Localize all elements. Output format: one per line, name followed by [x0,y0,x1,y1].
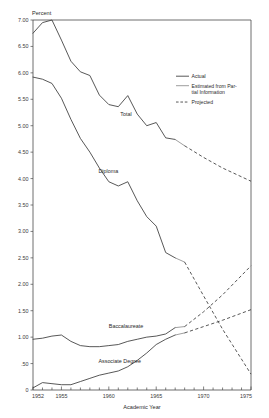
series-baccalaureate-actual [33,328,175,347]
x-tick-label: 1970 [198,393,210,399]
y-tick-label: 1.00 [18,334,29,340]
x-tick-label: 1975 [240,393,252,399]
y-axis-title: Percent [32,10,52,16]
x-tick-label: 1960 [103,393,115,399]
y-tick-label: 5.50 [18,96,29,102]
series-total-estimated [175,139,184,145]
y-tick-label: 4.50 [18,149,29,155]
x-axis-title: Academic Year [123,404,160,410]
series-associate-degree-estimated [175,333,184,335]
legend-label-estimated-from-par-cont: tial Information [192,89,226,95]
series-baccalaureate-projected [185,266,251,327]
y-tick-label: 3.50 [18,202,29,208]
y-tick-label: 7.00 [18,17,29,23]
legend-label-projected: Projected [192,99,214,105]
x-tick-label: 1955 [55,393,67,399]
y-tick-label: 2.00 [18,281,29,287]
series-total-projected [185,146,251,181]
line-chart: 7.006.506.005.505.004.504.003.503.002.50… [0,0,269,418]
series-label-diploma: Diploma [98,168,118,174]
y-tick-label: 4.00 [18,176,29,182]
series-diploma-projected [185,262,251,374]
series-total-actual [33,20,175,139]
legend-label-estimated-from-par: Estimated from Par- [192,83,238,89]
y-tick-label: 2.50 [18,255,29,261]
y-tick-label: .50 [21,361,29,367]
y-tick-label: 3.00 [18,228,29,234]
x-tick-label: 1952 [32,393,44,399]
x-tick-label: 1965 [150,393,162,399]
chart-container: 7.006.506.005.505.004.504.003.503.002.50… [0,0,269,418]
y-tick-label: 5.00 [18,123,29,129]
y-tick-label: 0 [26,387,29,393]
y-tick-label: 6.00 [18,70,29,76]
series-label-baccalaureate: Baccalaureate [109,323,143,329]
y-tick-label: 6.50 [18,43,29,49]
series-label-associate-degree: Associate Degree [98,358,141,364]
series-baccalaureate-estimated [175,327,184,328]
y-tick-label: 1.50 [18,308,29,314]
series-diploma-estimated [175,258,184,262]
series-label-total: Total [120,111,131,117]
legend-label-actual: Actual [192,73,206,79]
